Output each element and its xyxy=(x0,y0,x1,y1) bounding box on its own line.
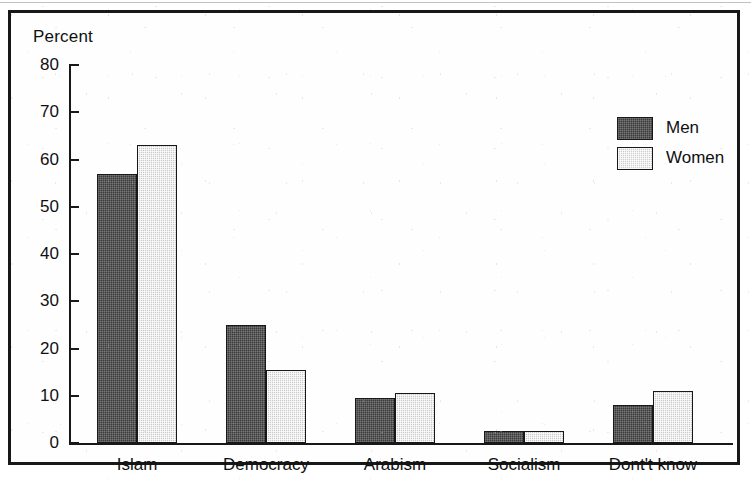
y-tick-mark xyxy=(71,64,79,66)
y-tick-mark xyxy=(71,253,79,255)
bar-women-democracy[interactable] xyxy=(266,370,306,443)
x-axis-line xyxy=(69,443,733,445)
bar-men-islam[interactable] xyxy=(97,174,137,443)
x-axis-label: Dont't know xyxy=(573,455,733,475)
bar-men-socialism[interactable] xyxy=(484,431,524,443)
bar-men-democracy[interactable] xyxy=(226,325,266,443)
legend-item-women[interactable]: Women xyxy=(617,143,724,173)
y-tick-label: 40 xyxy=(40,244,59,264)
y-tick-label: 20 xyxy=(40,339,59,359)
y-tick-mark xyxy=(71,300,79,302)
bar-group: Socialism xyxy=(484,65,564,443)
y-tick-mark xyxy=(71,159,79,161)
y-tick-mark xyxy=(71,206,79,208)
y-axis-title: Percent xyxy=(33,27,93,47)
y-tick-label: 70 xyxy=(40,102,59,122)
y-tick-label: 10 xyxy=(40,386,59,406)
y-tick-mark xyxy=(71,348,79,350)
chart-legend: MenWomen xyxy=(617,113,724,173)
bar-group: Arabism xyxy=(355,65,435,443)
legend-label: Women xyxy=(666,148,724,168)
y-tick-mark xyxy=(71,111,79,113)
y-tick-label: 80 xyxy=(40,55,59,75)
legend-swatch-men xyxy=(617,117,653,140)
bar-men-arabism[interactable] xyxy=(355,398,395,443)
bar-women-socialism[interactable] xyxy=(524,431,564,443)
bar-women-arabism[interactable] xyxy=(395,393,435,443)
y-tick-label: 0 xyxy=(50,433,59,453)
legend-swatch-women xyxy=(617,147,653,170)
legend-label: Men xyxy=(666,118,699,138)
scan-artifact-line xyxy=(0,2,751,3)
bar-group: Islam xyxy=(97,65,177,443)
y-tick-label: 30 xyxy=(40,291,59,311)
bar-women-dont-t-know[interactable] xyxy=(653,391,693,443)
bar-men-dont-t-know[interactable] xyxy=(613,405,653,443)
y-tick-mark xyxy=(71,395,79,397)
chart-frame: Percent 01020304050607080 IslamDemocracy… xyxy=(8,10,740,465)
y-tick-label: 50 xyxy=(40,197,59,217)
bar-women-islam[interactable] xyxy=(137,145,177,443)
legend-item-men[interactable]: Men xyxy=(617,113,724,143)
y-tick-mark xyxy=(71,442,79,444)
y-tick-label: 60 xyxy=(40,150,59,170)
bar-group: Democracy xyxy=(226,65,306,443)
